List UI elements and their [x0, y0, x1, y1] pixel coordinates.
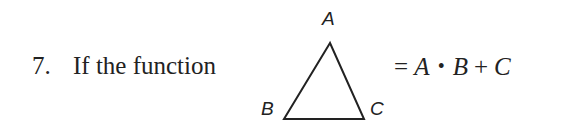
vertex-label-a: A [322, 8, 335, 30]
term-a: A [414, 53, 429, 80]
problem-statement: 7.If the function [32, 52, 216, 80]
triangle-function-diagram: A B C [250, 0, 390, 123]
multiply-dot: • [438, 55, 445, 77]
problem-number: 7. [32, 52, 73, 80]
vertex-label-c: C [370, 98, 384, 120]
equals-sign: = [394, 53, 408, 80]
plus-sign: + [474, 53, 488, 80]
vertex-label-b: B [261, 98, 274, 120]
term-c: C [494, 53, 511, 80]
term-b: B [453, 53, 468, 80]
function-definition: = A•B+C [394, 53, 511, 81]
problem-text: If the function [73, 52, 216, 79]
